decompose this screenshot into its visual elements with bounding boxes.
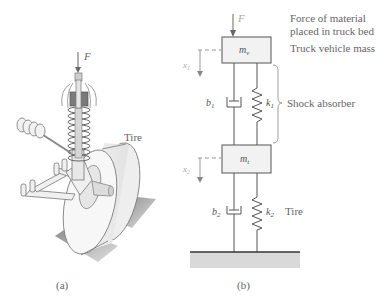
k2-label: k2 bbox=[266, 206, 274, 219]
force-arrow-a bbox=[75, 52, 81, 73]
caption-a: (a) bbox=[56, 279, 69, 292]
figure: F Tire (a) F mv x1 b1 k1 Shock bbox=[0, 0, 384, 303]
ground bbox=[190, 252, 300, 268]
force-annotation-line2: placed in truck bed bbox=[290, 25, 374, 37]
force-label-a: F bbox=[83, 50, 91, 62]
damper-b1 bbox=[227, 63, 241, 145]
shock-absorber-label: Shock absorber bbox=[287, 97, 355, 109]
force-annotation-line1: Force of material bbox=[290, 12, 366, 24]
figure-canvas: F Tire (a) F mv x1 b1 k1 Shock bbox=[0, 0, 384, 303]
force-label-b: F bbox=[237, 12, 245, 24]
spring-k2 bbox=[252, 173, 262, 252]
caption-b: (b) bbox=[237, 279, 250, 292]
spring-k1 bbox=[252, 63, 262, 145]
b1-label: b1 bbox=[206, 97, 215, 110]
sway-bar-link bbox=[17, 118, 71, 153]
suspension-illustration: F Tire (a) bbox=[17, 50, 156, 292]
x1-label: x1 bbox=[182, 60, 190, 71]
damper-b2 bbox=[227, 173, 241, 252]
shock-absorber-brace bbox=[273, 65, 282, 143]
tire-label-b: Tire bbox=[285, 205, 303, 217]
tire-label-a: Tire bbox=[124, 131, 142, 143]
vehicle-mass-annotation: Truck vehicle mass bbox=[290, 42, 375, 54]
k1-label: k1 bbox=[266, 97, 274, 110]
b2-label: b2 bbox=[212, 206, 221, 219]
x2-label: x2 bbox=[182, 164, 190, 175]
quarter-car-schematic: F mv x1 b1 k1 Shock absorber mt x2 bbox=[182, 12, 375, 292]
force-arrow-b bbox=[230, 14, 236, 37]
top-mount bbox=[62, 73, 97, 108]
